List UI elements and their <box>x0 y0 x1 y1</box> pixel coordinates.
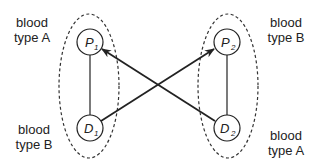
label-D2-line-2: type A <box>256 143 316 158</box>
node-D1-letter: D <box>84 121 93 136</box>
node-D1-subscript: 1 <box>94 129 98 138</box>
label-P2-line-1: blood <box>256 15 316 30</box>
label-D1-line-1: blood <box>4 122 64 137</box>
label-D1-line-2: type B <box>4 137 64 152</box>
label-P2-line-2: type B <box>256 30 316 45</box>
label-P1-line-1: blood <box>2 15 62 30</box>
label-P1-line-2: type A <box>2 30 62 45</box>
label-D2-blood-type: blood type A <box>256 128 316 158</box>
node-P2-subscript: 2 <box>230 43 236 52</box>
label-D1-blood-type: blood type B <box>4 122 64 152</box>
node-P1-subscript: 1 <box>94 43 98 52</box>
node-P1: P 1 <box>77 29 103 55</box>
label-P2-blood-type: blood type B <box>256 15 316 45</box>
node-P1-letter: P <box>85 35 94 50</box>
node-D2: D 2 <box>214 115 240 141</box>
label-P1-blood-type: blood type A <box>2 15 62 45</box>
node-D1: D 1 <box>77 115 103 141</box>
label-D2-line-1: blood <box>256 128 316 143</box>
node-P2: P 2 <box>214 29 240 55</box>
node-D2-letter: D <box>220 121 229 136</box>
node-D2-subscript: 2 <box>230 129 236 138</box>
node-P2-letter: P <box>221 35 230 50</box>
